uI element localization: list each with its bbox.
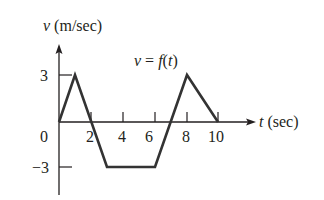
x-ticks [91,112,218,122]
x-tick-label-4: 4 [118,128,126,145]
velocity-curve [59,75,218,167]
y-axis-label: v (m/sec) [43,17,102,35]
x-tick-label-6: 6 [145,128,153,145]
y-tick-label-3: 3 [40,67,48,84]
x-tick-label-2: 2 [86,128,94,145]
curve-label: v = f(t) [134,52,178,70]
y-tick-label-neg3: −3 [32,159,49,176]
x-tick-label-8: 8 [182,128,190,145]
x-axis-label: t (sec) [259,113,299,131]
x-tick-label-0: 0 [40,128,48,145]
x-tick-label-10: 10 [208,128,224,145]
velocity-chart: v (m/sec) v = f(t) t (sec) 0 2 4 6 8 10 … [0,0,324,200]
